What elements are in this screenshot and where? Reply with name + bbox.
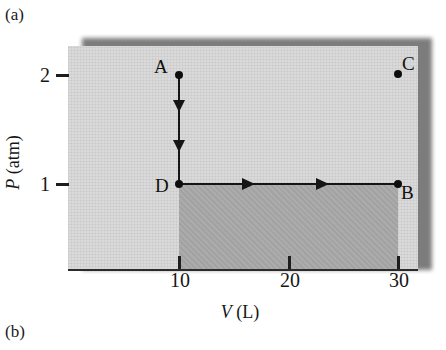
- y-tick-2: [56, 74, 69, 77]
- pv-diagram-figure: V (L) (a) (b) 10 20 30 2 1 P (atm) V (L)…: [0, 0, 446, 350]
- arrowhead-right-icon: [242, 178, 255, 190]
- state-point-a: [175, 71, 183, 79]
- panel-letter-a: (a): [5, 5, 24, 25]
- state-label-d: D: [155, 175, 169, 197]
- arrowhead-down-icon: [173, 100, 185, 112]
- process-path-a-to-d: [178, 75, 180, 185]
- x-axis-line: [68, 269, 418, 271]
- x-tick-label-30: 30: [369, 269, 429, 292]
- y-tick-label-1: 1: [20, 173, 50, 196]
- process-path-d-to-b: [179, 183, 399, 185]
- x-axis-label: V (L): [185, 302, 295, 323]
- x-axis-unit: (L): [232, 302, 259, 322]
- state-label-a: A: [154, 56, 168, 78]
- x-tick-20: [288, 256, 291, 269]
- y-tick-label-2: 2: [20, 64, 50, 87]
- x-tick-label-20: 20: [260, 269, 320, 292]
- x-axis-variable: V: [221, 302, 232, 322]
- arrowhead-right-icon: [316, 178, 329, 190]
- panel-letter-b: (b): [5, 322, 25, 342]
- state-label-b: B: [401, 182, 414, 204]
- plot-panel: [68, 46, 418, 270]
- x-tick-10: [178, 256, 181, 269]
- x-tick-label-10: 10: [150, 269, 210, 292]
- state-point-d: [175, 180, 183, 188]
- y-axis-label: P (atm): [3, 98, 24, 228]
- x-tick-30: [397, 256, 400, 269]
- state-label-c: C: [402, 53, 415, 75]
- state-point-c: [394, 70, 402, 78]
- y-tick-1: [56, 183, 69, 186]
- arrowhead-down-icon: [173, 140, 185, 152]
